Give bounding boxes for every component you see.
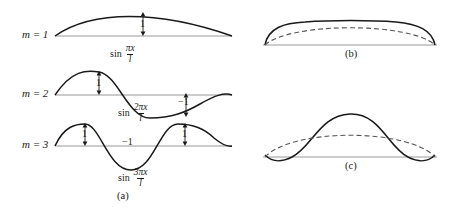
formula-m3-denominator: l [137,178,144,189]
amplitude-label-m3-trough: −1 [122,137,133,147]
amplitude-label-m1-peak: 1 [140,19,145,29]
formula-m1: sin πx l [110,44,137,64]
formula-m1-fraction: πx l [124,44,137,64]
caption-b: (b) [345,49,357,60]
amp-arrow-down-m3-peak2 [183,141,188,146]
formula-m2-denominator: l [137,113,144,124]
mode-label-m3: m = 3 [22,139,48,150]
amp-arrow-down-m3-peak1 [83,141,88,146]
formula-m2-numerator: 2πx [132,103,150,113]
amplitude-label-m2-trough: −1 [178,97,189,107]
formula-m2-fraction: 2πx l [132,103,150,123]
caption-c: (c) [345,161,357,172]
formula-m3-fraction: 3πx l [132,168,150,188]
figure-svg [0,0,457,211]
curve-c-dashed [265,135,435,157]
formula-m1-fn: sin [110,49,122,59]
amplitude-label-m2-peak: 1 [96,78,101,88]
amplitude-label-m3-peak1: 1 [82,129,87,139]
panel-b [263,21,437,46]
formula-m2-fn: sin [118,108,130,118]
curve-b-dashed [265,28,435,45]
formula-m3: sin 3πx l [118,168,149,188]
amp-arrow-up-m1 [141,12,146,17]
caption-a: (a) [117,191,129,202]
amp-arrow-down-m1 [141,31,146,36]
amplitude-label-m3-peak2: 1 [182,129,187,139]
sine-mode-figure: m = 1 m = 2 m = 3 1 1 −1 1 −1 1 sin πx l… [0,0,457,211]
formula-m1-denominator: l [127,54,134,65]
formula-m2: sin 2πx l [118,103,149,123]
amp-arrow-down-m2-trough [184,112,189,117]
panel-c [263,114,437,161]
formula-m3-numerator: 3πx [132,168,150,178]
mode-label-m2: m = 2 [22,88,48,99]
amp-arrow-down-m2-peak [97,90,102,95]
formula-m3-fn: sin [118,173,130,183]
mode-label-m1: m = 1 [22,29,48,40]
formula-m1-numerator: πx [124,44,137,54]
curve-b-solid [265,21,435,46]
curve-c-solid [265,114,435,161]
